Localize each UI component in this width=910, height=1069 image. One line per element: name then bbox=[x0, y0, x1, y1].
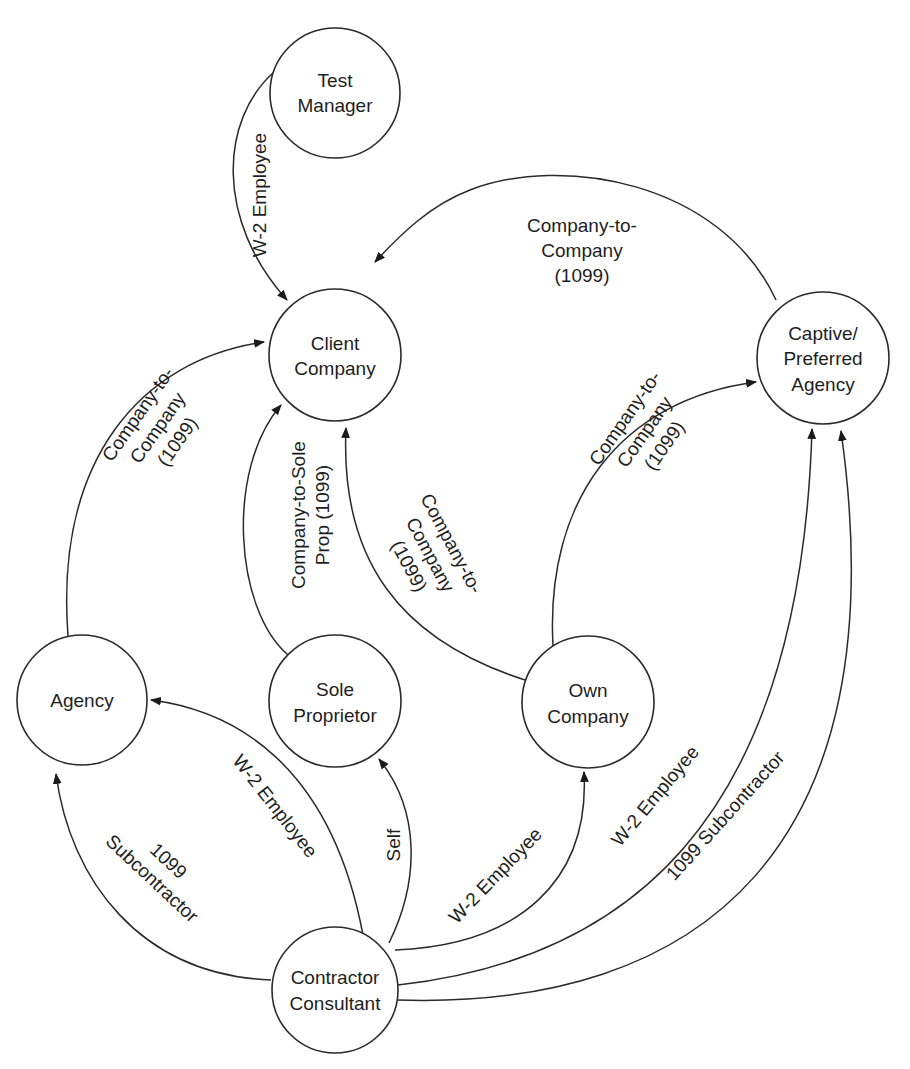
node-label-line: Contractor bbox=[291, 967, 380, 988]
node-label-line: Sole bbox=[316, 679, 354, 700]
connector-arrow bbox=[243, 405, 288, 655]
edge-contractor-to-own bbox=[395, 772, 584, 950]
edge-label-test-manager-to-client: W-2 Employee bbox=[249, 133, 270, 257]
node-circle bbox=[270, 28, 400, 158]
edge-label-line: W-2 Employee bbox=[229, 751, 322, 862]
node-contractor-consultant: Contractor Consultant bbox=[272, 927, 398, 1053]
node-label-line: Manager bbox=[298, 95, 374, 116]
edge-sole-to-client bbox=[243, 405, 288, 655]
node-sole-proprietor: Sole Proprietor bbox=[269, 635, 401, 767]
edge-label-line: Company-to-Sole bbox=[288, 441, 309, 589]
node-agency: Agency bbox=[17, 635, 147, 765]
edge-label-agency-to-client: Company-to- Company (1099) bbox=[98, 363, 218, 493]
node-test-manager: Test Manager bbox=[270, 28, 400, 158]
node-circle bbox=[522, 636, 654, 768]
edge-label-own-to-client: Company-to- Company (1099) bbox=[374, 490, 486, 619]
edge-label-contractor-to-own: W-2 Employee bbox=[445, 823, 546, 927]
node-label-line: Captive/ bbox=[788, 323, 858, 344]
node-label-line: Company bbox=[294, 358, 376, 379]
node-label-line: Preferred bbox=[783, 348, 862, 369]
edge-label-line: Prop (1099) bbox=[312, 465, 333, 565]
edge-label-line: (1099) bbox=[555, 265, 610, 286]
edge-label-line: Company-to- bbox=[527, 215, 637, 236]
node-circle bbox=[269, 289, 401, 421]
node-label-line: Consultant bbox=[290, 993, 382, 1014]
connector-arrow bbox=[395, 772, 584, 950]
node-label-line: Own bbox=[568, 680, 607, 701]
node-label-line: Company bbox=[547, 706, 629, 727]
node-label-line: Proprietor bbox=[293, 705, 377, 726]
edge-label-contractor-to-sole: Self bbox=[383, 828, 404, 861]
edge-label-line: Company bbox=[541, 240, 623, 261]
node-label-line: Agency bbox=[50, 690, 114, 711]
node-own-company: Own Company bbox=[522, 636, 654, 768]
edge-label-sole-to-client: Company-to-Sole Prop (1099) bbox=[288, 441, 333, 589]
node-client-company: Client Company bbox=[269, 289, 401, 421]
edge-label-line: W-2 Employee bbox=[249, 133, 270, 257]
edge-label-own-to-captive: Company-to- Company (1099) bbox=[585, 367, 705, 497]
edge-label-captive-to-client: Company-to- Company (1099) bbox=[527, 215, 637, 286]
relationship-diagram: Test Manager Client Company Captive/ Pre… bbox=[0, 0, 910, 1069]
node-captive-preferred-agency: Captive/ Preferred Agency bbox=[757, 292, 889, 424]
node-label-line: Agency bbox=[791, 374, 855, 395]
node-circle bbox=[269, 635, 401, 767]
node-label-line: Client bbox=[311, 333, 360, 354]
edge-label-contractor-to-agency-w2: W-2 Employee bbox=[229, 751, 322, 862]
edge-label-contractor-to-agency-1099: 1099 Subcontractor bbox=[102, 813, 220, 927]
edge-label-line: W-2 Employee bbox=[445, 823, 546, 927]
node-circle bbox=[272, 927, 398, 1053]
node-label-line: Test bbox=[318, 70, 354, 91]
edge-label-line: Self bbox=[383, 828, 404, 861]
